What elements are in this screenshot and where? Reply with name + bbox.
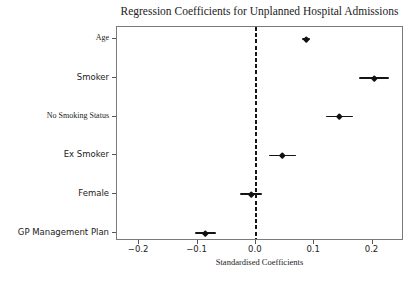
point-marker [202, 230, 208, 236]
point-marker [279, 152, 285, 158]
figure: Regression Coefficients for Unplanned Ho… [0, 0, 418, 283]
point-marker [371, 75, 377, 81]
y-tick [112, 116, 116, 117]
x-tick-label: 0.0 [235, 244, 275, 254]
y-tick [112, 193, 116, 194]
x-axis-label: Standardised Coefficients [116, 257, 403, 267]
x-tick-label: 0.2 [352, 244, 392, 254]
y-tick [112, 77, 116, 78]
zero-reference-line [255, 27, 257, 239]
y-label-no-smoking-status: No Smoking Status [0, 111, 109, 121]
y-label-gp-management-plan: GP Management Plan [0, 227, 109, 237]
point-marker [303, 36, 309, 42]
y-label-ex-smoker: Ex Smoker [0, 149, 109, 159]
y-tick [112, 38, 116, 39]
point-marker [336, 113, 342, 119]
x-tick-label: −0.2 [118, 244, 158, 254]
plot-area [116, 26, 403, 240]
y-tick [112, 154, 116, 155]
y-label-smoker: Smoker [0, 72, 109, 82]
point-marker [248, 191, 254, 197]
y-label-age: Age [0, 33, 109, 43]
y-label-female: Female [0, 188, 109, 198]
y-tick [112, 232, 116, 233]
chart-title: Regression Coefficients for Unplanned Ho… [116, 5, 403, 17]
x-tick-label: 0.1 [293, 244, 333, 254]
x-tick-label: −0.1 [177, 244, 217, 254]
